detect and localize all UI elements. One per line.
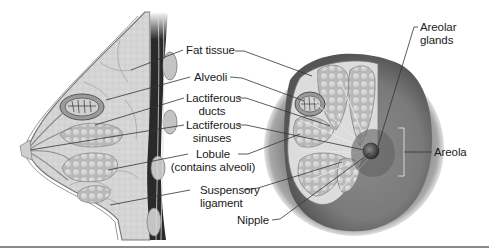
label-text: sinuses [186, 132, 238, 145]
sagittal-section [20, 12, 177, 240]
label-text: glands [420, 34, 456, 47]
label-text: Alveoli [194, 71, 227, 83]
label-text: Lactiferous [186, 92, 238, 105]
label-text: (contains alveoli) [170, 161, 256, 174]
label-alveoli: Alveoli [194, 71, 227, 84]
label-suspensory-ligament: Suspensory ligament [200, 184, 260, 210]
label-text: Lobule [170, 148, 256, 161]
label-text: Suspensory [200, 184, 260, 197]
label-areolar-glands: Areolar glands [420, 21, 456, 47]
label-text: Fat tissue [186, 44, 235, 56]
label-text: ligament [200, 197, 260, 210]
anterior-view [264, 54, 444, 236]
label-nipple: Nipple [237, 214, 269, 227]
label-lobule: Lobule (contains alveoli) [170, 148, 256, 174]
label-lactiferous-sinuses: Lactiferous sinuses [186, 119, 238, 145]
label-text: Nipple [237, 214, 269, 226]
label-lactiferous-ducts: Lactiferous ducts [186, 92, 238, 118]
label-text: Areolar [420, 21, 456, 34]
label-text: Areola [434, 146, 467, 158]
illustration [0, 0, 489, 250]
label-text: Lactiferous [186, 119, 238, 132]
anatomy-diagram: Fat tissue Alveoli Lactiferous ducts Lac… [0, 0, 489, 250]
label-text: ducts [186, 105, 238, 118]
bottom-divider [0, 246, 489, 248]
label-fat-tissue: Fat tissue [186, 44, 235, 57]
label-areola: Areola [434, 146, 467, 159]
